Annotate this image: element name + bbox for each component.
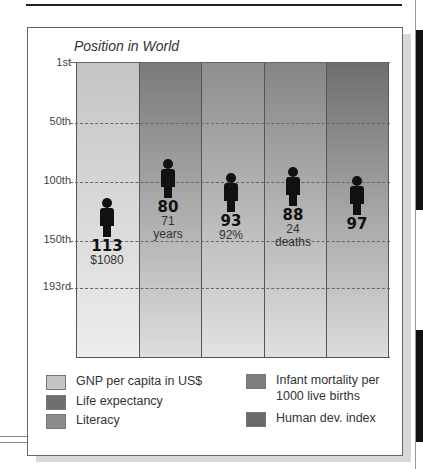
marker-gnp: 113 $1080: [77, 198, 137, 267]
legend-item-literacy: Literacy: [46, 412, 120, 429]
marker-life-expectancy: 80 71 years: [138, 159, 198, 241]
legend-label: Literacy: [76, 412, 120, 428]
person-icon: [158, 159, 178, 199]
marker-literacy: 93 92%: [201, 173, 261, 242]
value-label: $1080: [77, 254, 137, 267]
value-unit: deaths: [263, 236, 323, 249]
page-edge-block: [416, 30, 423, 210]
person-icon: [221, 173, 241, 213]
value-unit: years: [138, 228, 198, 241]
top-rule: [26, 4, 402, 6]
legend-label-line1: Infant mortality per: [276, 372, 380, 388]
gridline-50th: [70, 123, 390, 124]
legend-swatch: [46, 414, 66, 429]
y-tick-1st: 1st: [31, 56, 71, 68]
marker-infant-mortality: 88 24 deaths: [263, 167, 323, 249]
rank-value: 97: [327, 216, 387, 232]
person-icon: [283, 167, 303, 207]
legend-swatch: [246, 374, 266, 389]
y-tick-50th: 50th: [31, 115, 71, 127]
legend-swatch: [46, 395, 66, 410]
legend-label: GNP per capita in US$: [76, 373, 202, 389]
person-icon: [347, 176, 367, 216]
y-tick-100th: 100th: [31, 174, 71, 186]
legend-label: Human dev. index: [276, 410, 376, 426]
chart-title: Position in World: [74, 38, 179, 54]
legend-item-human-dev-index: Human dev. index: [246, 410, 376, 427]
legend-item-life-expectancy: Life expectancy: [46, 393, 163, 410]
person-icon: [97, 198, 117, 238]
y-tick-193rd: 193rd: [31, 280, 71, 292]
gridline-1st: [70, 62, 390, 63]
legend-label: Infant mortality per 1000 live births: [276, 372, 380, 404]
gridline-193rd: [70, 288, 390, 289]
rank-value: 80: [138, 199, 198, 215]
rank-value: 113: [77, 238, 137, 254]
legend-label-line2: 1000 live births: [276, 388, 380, 404]
legend-label: Life expectancy: [76, 393, 163, 409]
page-edge-block: [416, 330, 423, 442]
chart-card: Position in World 1st 50th 100th 150th 1…: [27, 27, 403, 456]
legend-swatch: [46, 375, 66, 390]
y-tick-150th: 150th: [31, 233, 71, 245]
legend-swatch: [246, 412, 266, 427]
legend-item-infant-mortality: Infant mortality per 1000 live births: [246, 372, 380, 404]
marker-human-dev-index: 97: [327, 176, 387, 232]
page-rule-lines: [0, 436, 28, 443]
rank-value: 93: [201, 213, 261, 229]
x-axis-baseline: [76, 357, 390, 358]
rank-value: 88: [263, 207, 323, 223]
legend-item-gnp: GNP per capita in US$: [46, 373, 202, 390]
value-label: 92%: [201, 229, 261, 242]
